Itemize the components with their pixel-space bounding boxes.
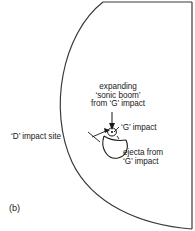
diagram-canvas	[0, 0, 195, 231]
ejecta-tick-line	[117, 136, 119, 139]
g-impact-point	[111, 131, 113, 133]
ejecta-plume-top-edge	[104, 136, 126, 140]
sonic-boom-arrowhead-icon	[109, 123, 115, 130]
annotation-g-impact: ‘G’ impact	[121, 124, 157, 133]
annotation-sonic-boom: expanding ‘sonic boom’ from ‘G’ impact	[76, 83, 160, 109]
figure-panel-b: expanding ‘sonic boom’ from ‘G’ impact ‘…	[0, 0, 195, 231]
annotation-ejecta-line2: ‘G’ impact	[123, 157, 163, 166]
annotation-d-impact-site: ‘D’ impact site	[11, 133, 61, 142]
annotation-ejecta-line1: ejecta from	[123, 148, 163, 157]
annotation-ejecta: ejecta from ‘G’ impact	[123, 148, 163, 166]
annotation-sonic-boom-line3: from ‘G’ impact	[76, 100, 160, 109]
d-impact-tick-line	[88, 132, 100, 142]
panel-label: (b)	[9, 204, 20, 213]
planet-limb-arc	[60, 2, 192, 229]
